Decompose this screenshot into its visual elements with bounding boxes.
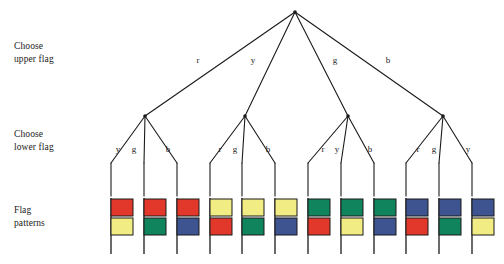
flag-9-lower-blue	[374, 218, 396, 235]
flag-6	[275, 198, 297, 254]
flag-7-upper-green	[308, 199, 330, 216]
level2-edge-label-y-b: b	[266, 144, 271, 154]
flag-3-lower-blue	[177, 218, 199, 235]
level2-edge-r-g	[144, 116, 145, 163]
flag-4-upper-yellow	[210, 199, 232, 216]
flag-8-lower-yellow	[341, 218, 363, 235]
flag-12	[472, 198, 494, 254]
leaf-connector-lines	[111, 163, 472, 196]
level2-edge-label-g-b: b	[368, 144, 373, 154]
level2-edge-label-b-r: r	[417, 144, 420, 154]
level2-edge-b-y	[443, 116, 472, 163]
level2-edge-label-g-y: y	[335, 144, 340, 154]
flag-7-lower-red	[308, 218, 330, 235]
level1-edge-b	[295, 12, 443, 116]
flag-12-upper-blue	[472, 199, 494, 216]
flag-1-lower-yellow	[111, 218, 133, 235]
flag-8	[341, 198, 363, 254]
tree-nodes	[143, 10, 445, 118]
level2-edge-g-b	[348, 116, 374, 163]
level1-edge-label-r: r	[197, 55, 200, 65]
level2-edge-r-y	[111, 116, 145, 163]
level2-edge-label-y-r: r	[219, 144, 222, 154]
level1-edge-label-y: y	[251, 55, 256, 65]
flag-7	[308, 198, 330, 254]
level2-edge-y-r	[210, 116, 245, 163]
flag-2	[144, 198, 166, 254]
level2-node-y	[243, 114, 247, 118]
level2-edge-label-r-b: b	[166, 144, 171, 154]
level2-edge-label-r-y: y	[116, 144, 121, 154]
level1-edge-label-g: g	[333, 55, 338, 65]
level2-edge-label-b-g: g	[432, 144, 437, 154]
flag-2-lower-green	[144, 218, 166, 235]
level2-edges	[111, 116, 472, 163]
flag-6-upper-yellow	[275, 199, 297, 216]
flag-10-upper-blue	[406, 199, 428, 216]
flag-12-lower-yellow	[472, 218, 494, 235]
level2-edge-label-y-g: g	[233, 144, 238, 154]
level1-edge-label-b: b	[386, 55, 391, 65]
root-node	[293, 10, 297, 14]
level2-edge-y-b	[245, 116, 275, 163]
flag-11-upper-blue	[439, 199, 461, 216]
diagram-canvas: Chooseupper flag Chooselower flag Flagpa…	[0, 0, 504, 264]
level2-edge-b-g	[439, 116, 443, 163]
flag-patterns-row	[111, 198, 494, 254]
level1-edge-g	[295, 12, 348, 116]
level2-node-g	[346, 114, 350, 118]
level2-edge-label-b-y: y	[466, 144, 471, 154]
level2-node-r	[143, 114, 147, 118]
flag-11-lower-green	[439, 218, 461, 235]
flag-9-upper-green	[374, 199, 396, 216]
flag-4	[210, 198, 232, 254]
level1-edge-r	[145, 12, 295, 116]
flag-1-upper-red	[111, 199, 133, 216]
flag-6-lower-blue	[275, 218, 297, 235]
flag-10-lower-red	[406, 218, 428, 235]
level1-edges	[145, 12, 443, 116]
flag-11	[439, 198, 461, 254]
flag-5	[242, 198, 264, 254]
flag-5-lower-green	[242, 218, 264, 235]
level2-edge-label-g-r: r	[322, 144, 325, 154]
flag-4-lower-red	[210, 218, 232, 235]
level2-edge-y-g	[242, 116, 245, 163]
flag-8-upper-green	[341, 199, 363, 216]
flag-5-upper-yellow	[242, 199, 264, 216]
flag-1	[111, 198, 133, 254]
flag-3	[177, 198, 199, 254]
flag-9	[374, 198, 396, 254]
edge-labels: rygbygbrgbrybrgy	[116, 55, 471, 154]
level2-edge-label-r-g: g	[132, 144, 137, 154]
flag-2-upper-red	[144, 199, 166, 216]
level2-edge-r-b	[145, 116, 177, 163]
flag-10	[406, 198, 428, 254]
decision-tree-graphic: rygbygbrgbrybrgy	[0, 0, 504, 264]
level2-node-b	[441, 114, 445, 118]
level2-edge-b-r	[406, 116, 443, 163]
flag-3-upper-red	[177, 199, 199, 216]
